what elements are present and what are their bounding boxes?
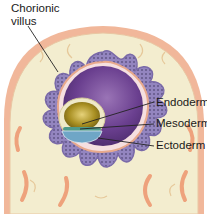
embryo-diagram: Chorionic villus Endoderm Mesoderm Ectod… [0,0,207,214]
label-endoderm: Endoderm [156,96,207,109]
label-chorionic-line1: Chorionic [11,2,60,15]
label-chorionic-line2: villus [11,15,60,28]
embryo [59,98,105,143]
yolk-sac [64,102,100,130]
label-ectoderm: Ectoderm [156,139,205,152]
label-chorionic-villus: Chorionic villus [11,2,60,28]
label-mesoderm: Mesoderm [156,117,207,130]
